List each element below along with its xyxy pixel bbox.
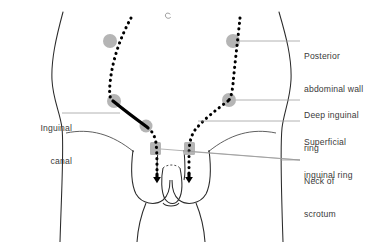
pelvic-contour-group (66, 131, 276, 152)
thigh-line-right (196, 203, 205, 242)
leader-neck-of-scrotum-b (195, 152, 300, 160)
right-body-outline (279, 12, 291, 242)
leader-line-group (62, 41, 300, 160)
label-neck-of-scrotum-line2: scrotum (304, 209, 386, 220)
figure-canvas: Inguinal canal Posterior abdominal wall … (0, 0, 388, 242)
label-superficial-inguinal-ring-line1: Superficial (304, 137, 386, 148)
label-neck-of-scrotum-line1: Neck of (304, 176, 386, 187)
right-path-dotted-upper (229, 18, 240, 100)
scrotum-left-lobe (131, 150, 170, 203)
label-inguinal-canal-line1: Inguinal (2, 123, 72, 134)
umbilicus-icon (165, 13, 170, 18)
external-genitalia-group (131, 150, 210, 242)
left-path-dotted-upper (110, 18, 131, 101)
label-inguinal-canal: Inguinal canal (2, 101, 72, 189)
label-inguinal-canal-line2: canal (2, 156, 72, 167)
label-posterior-abdominal-wall-line1: Posterior (304, 51, 386, 62)
right-path-dotted-lower (189, 101, 228, 174)
body-outline-group (52, 12, 291, 242)
left-inguinal-ligament-line (66, 131, 134, 152)
scrotum-right-lobe (172, 150, 211, 203)
thigh-line-left (137, 203, 146, 242)
right-inguinal-ligament-line (208, 131, 276, 152)
ring-marker-group (103, 34, 240, 155)
penis-outline (162, 168, 182, 204)
marker-deep-inguinal-ring-left (103, 34, 117, 48)
left-path-solid-canal (113, 101, 147, 127)
label-neck-of-scrotum: Neck of scrotum (304, 154, 386, 242)
penis-base-dashed (163, 165, 180, 168)
